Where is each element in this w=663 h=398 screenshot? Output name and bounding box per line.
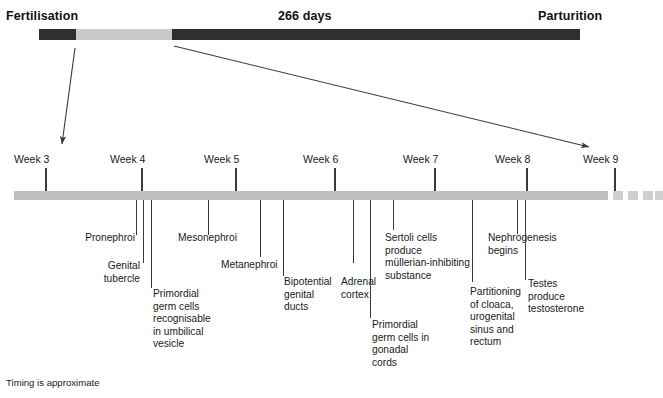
week-tick-9	[614, 168, 616, 191]
gestation-bar-segment-pre-embryonic	[39, 29, 76, 40]
event-label-primordial-germ-cells-gonadal-cords: Primordial germ cells in gonadal cords	[372, 319, 458, 369]
week-tick-6	[334, 168, 336, 191]
event-leader-primordial-germ-cells-gonadal-cords	[370, 200, 371, 318]
week-label-6: Week 6	[303, 153, 338, 165]
week-label-7: Week 7	[403, 153, 438, 165]
week-tick-8	[526, 168, 528, 191]
gestation-bar-segment-fetal	[172, 29, 580, 40]
event-leader-sertoli-cells-mis	[393, 200, 394, 230]
event-label-sertoli-cells-mis: Sertoli cells produce müllerian-inhibiti…	[385, 232, 500, 282]
week-axis-dash-2	[628, 191, 638, 200]
event-leader-mesonephroi	[208, 200, 209, 235]
event-leader-testes-produce-testosterone	[525, 200, 526, 280]
arrow-embryonic-to-week9	[174, 46, 589, 147]
week-label-3: Week 3	[14, 153, 49, 165]
event-label-nephrogenesis-begins: Nephrogenesis begins	[488, 232, 580, 257]
week-axis-dash-1	[613, 191, 623, 200]
week-tick-3	[45, 168, 47, 191]
week-label-4: Week 4	[110, 153, 145, 165]
event-label-mesonephroi: Mesonephroi	[178, 232, 273, 245]
gestation-bar-segment-embryonic-early	[76, 29, 172, 40]
week-axis-dash-4	[655, 191, 663, 200]
arrow-fertilisation-to-week3	[62, 48, 75, 144]
week-axis-dash-3	[643, 191, 653, 200]
gestation-duration-label: 266 days	[278, 9, 332, 23]
week-tick-5	[235, 168, 237, 191]
fertilisation-label: Fertilisation	[6, 9, 78, 23]
timing-footnote: Timing is approximate	[6, 377, 99, 388]
event-leader-pronephroi	[136, 200, 137, 235]
event-leader-adrenal-cortex	[353, 200, 354, 263]
week-tick-4	[141, 168, 143, 191]
event-leader-genital-tubercle	[143, 200, 144, 263]
week-label-9: Week 9	[583, 153, 618, 165]
event-label-metanephroi: Metanephroi	[221, 259, 313, 272]
event-label-primordial-germ-cells-umbilical-vesicle: Primordial germ cells recognisable in um…	[153, 288, 233, 351]
parturition-label: Parturition	[538, 9, 602, 23]
week-label-5: Week 5	[204, 153, 239, 165]
event-label-testes-produce-testosterone: Testes produce testosterone	[528, 278, 608, 316]
event-leader-partitioning-cloaca	[472, 200, 473, 282]
gestation-timeline-figure: Fertilisation 266 days Parturition Week …	[0, 0, 663, 398]
event-label-pronephroi: Pronephroi	[27, 232, 135, 245]
event-leader-bipotential-genital-ducts	[283, 200, 284, 276]
event-label-genital-tubercle: Genital tubercle	[34, 260, 140, 285]
week-label-8: Week 8	[495, 153, 530, 165]
event-leader-primordial-germ-cells-umbilical-vesicle	[151, 200, 152, 288]
week-tick-7	[434, 168, 436, 191]
event-leader-metanephroi	[260, 200, 261, 257]
week-axis-bar	[14, 191, 608, 200]
event-leader-nephrogenesis-begins	[517, 200, 518, 234]
